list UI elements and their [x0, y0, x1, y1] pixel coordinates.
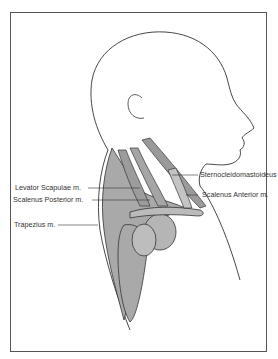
acromion — [132, 224, 156, 256]
label-levator-scapulae: Levator Scapulae m. — [15, 184, 81, 191]
ear-outline — [128, 95, 144, 119]
anatomy-illustration — [0, 0, 278, 359]
label-sternocleidomastoideus: Sternocleidomastoideus m. — [200, 171, 278, 178]
label-scalenus-posterior: Scalenus Posterior m. — [13, 196, 83, 203]
label-trapezius: Trapezius m. — [14, 221, 55, 228]
label-scalenus-anterior: Scalenus Anterior m. — [202, 191, 268, 198]
